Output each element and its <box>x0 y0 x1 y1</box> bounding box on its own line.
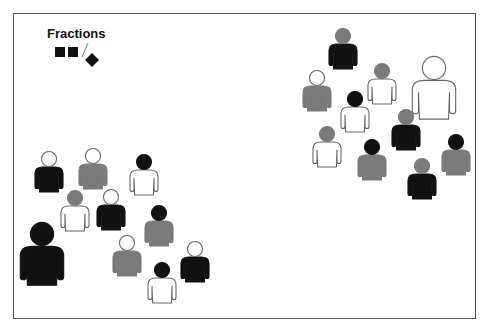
person-figure <box>303 71 331 112</box>
person-figure <box>20 222 63 285</box>
person-figure <box>79 149 107 190</box>
person-head <box>375 64 390 79</box>
person-figure <box>148 263 176 304</box>
person-body <box>35 167 63 192</box>
person-figure <box>408 159 436 200</box>
person-body <box>148 278 176 303</box>
person-body <box>368 79 396 104</box>
person-head <box>449 135 464 150</box>
person-body <box>341 107 369 132</box>
person-head <box>365 140 380 155</box>
person-head <box>155 263 170 278</box>
person-figure <box>442 135 470 176</box>
person-head <box>86 149 101 164</box>
person-body <box>79 164 107 189</box>
person-body <box>412 80 455 119</box>
person-head <box>42 152 57 167</box>
person-figure <box>145 206 173 247</box>
person-body <box>313 142 341 167</box>
person-head <box>68 191 83 206</box>
figures-layer <box>0 0 487 328</box>
person-figure <box>313 127 341 168</box>
person-head <box>422 56 445 79</box>
person-body <box>442 150 470 175</box>
person-body <box>358 155 386 180</box>
person-body <box>20 246 63 285</box>
person-head <box>415 159 430 174</box>
person-head <box>348 92 363 107</box>
person-figure <box>113 236 141 277</box>
person-figure <box>97 190 125 231</box>
person-figure <box>412 56 455 119</box>
person-head <box>104 190 119 205</box>
person-figure <box>358 140 386 181</box>
person-figure <box>181 242 209 283</box>
person-figure <box>130 155 158 196</box>
person-figure <box>61 191 89 232</box>
person-head <box>120 236 135 251</box>
person-body <box>329 44 357 69</box>
person-head <box>152 206 167 221</box>
person-head <box>320 127 335 142</box>
person-body <box>408 174 436 199</box>
person-body <box>130 170 158 195</box>
person-head <box>336 29 351 44</box>
person-head <box>188 242 203 257</box>
person-body <box>303 86 331 111</box>
person-head <box>137 155 152 170</box>
person-head <box>399 110 414 125</box>
person-body <box>181 257 209 282</box>
person-head <box>310 71 325 86</box>
person-figure <box>341 92 369 133</box>
person-body <box>145 221 173 246</box>
person-body <box>61 206 89 231</box>
person-figure <box>329 29 357 70</box>
person-figure <box>35 152 63 193</box>
person-body <box>97 205 125 230</box>
person-figure <box>368 64 396 105</box>
person-figure <box>392 110 420 151</box>
person-body <box>113 251 141 276</box>
person-head <box>30 222 53 245</box>
person-body <box>392 125 420 150</box>
